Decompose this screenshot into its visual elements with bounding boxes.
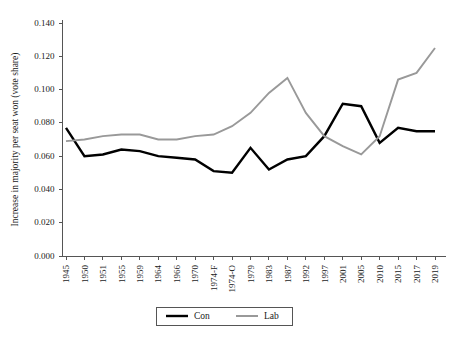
x-tick-label: 2015 [393, 265, 403, 284]
x-tick-label: 1959 [135, 265, 145, 284]
y-tick-label: 0.040 [34, 184, 55, 194]
x-tick-label: 2001 [338, 265, 348, 283]
x-tick-label: 1983 [264, 265, 274, 284]
x-tick-label: 1970 [190, 265, 200, 284]
y-tick-label: 0.080 [34, 117, 55, 127]
x-tick-label: 1974-O [227, 265, 237, 293]
chart-figure: 0.0000.0200.0400.0600.0800.1000.1200.140… [0, 0, 464, 337]
x-tick-label: 2005 [356, 265, 366, 284]
line-chart: 0.0000.0200.0400.0600.0800.1000.1200.140… [0, 0, 464, 337]
legend-label-lab[interactable]: Lab [264, 311, 279, 321]
legend-label-con[interactable]: Con [194, 311, 210, 321]
x-tick-label: 2010 [375, 265, 385, 284]
y-tick-label: 0.060 [34, 151, 55, 161]
y-axis-title-label: Increase in majority per seat won (vote … [10, 53, 21, 227]
y-axis-title: Increase in majority per seat won (vote … [10, 53, 21, 227]
x-tick-label: 1992 [301, 265, 311, 283]
y-tick-label: 0.020 [34, 217, 55, 227]
x-tick-label: 1974-F [209, 265, 219, 291]
chart-legend[interactable]: ConLab [156, 307, 292, 325]
y-tick-label: 0.100 [34, 84, 55, 94]
x-tick-label: 1979 [246, 265, 256, 284]
x-tick-label: 1964 [153, 265, 163, 284]
x-tick-label: 1955 [117, 265, 127, 284]
x-tick-label: 1951 [98, 265, 108, 283]
x-tick-label: 2017 [412, 265, 422, 284]
x-tick-label: 1966 [172, 265, 182, 284]
y-tick-label: 0.120 [34, 51, 55, 61]
x-tick-label: 1950 [80, 265, 90, 284]
y-tick-label: 0.140 [34, 18, 55, 28]
x-tick-label: 1997 [320, 265, 330, 284]
y-tick-label: 0.000 [34, 251, 55, 261]
x-tick-label: 1987 [283, 265, 293, 284]
x-tick-label: 2019 [430, 265, 440, 284]
x-tick-label: 1945 [61, 265, 71, 284]
